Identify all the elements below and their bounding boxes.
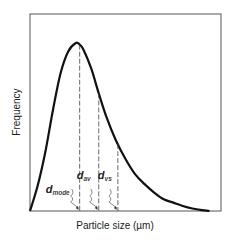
marker-arrow-mode — [71, 189, 79, 208]
marker-subscript-av: av — [83, 175, 91, 182]
marker-subscript-mode: mode — [52, 189, 70, 196]
y-axis-label: Frequency — [11, 88, 22, 135]
distribution-curve — [30, 43, 210, 211]
marker-label-mode: dmode — [46, 183, 70, 196]
x-axis-label: Particle size (µm) — [76, 220, 153, 231]
marker-subscript-vs: vs — [105, 175, 113, 182]
chart: dmodedavdvs Frequency Particle size (µm) — [0, 0, 230, 242]
marker-group: dmodedavdvs — [46, 45, 118, 211]
marker-arrow-vs — [109, 189, 117, 208]
marker-label-vs: dvs — [98, 169, 112, 182]
plot-frame — [30, 14, 221, 211]
marker-arrow-av — [90, 189, 98, 208]
marker-label-av: dav — [77, 169, 91, 182]
